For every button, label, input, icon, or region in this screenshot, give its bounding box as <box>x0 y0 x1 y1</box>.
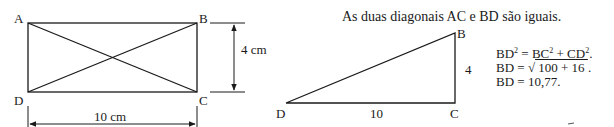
equation-pythagoras: BD2 = BC2 + CD2. <box>496 47 592 60</box>
side-dc-label: 10 <box>370 107 383 120</box>
triangle-bcd <box>286 33 455 103</box>
equation-sqrt: BD = √ 100 + 16 . <box>496 61 591 74</box>
height-dimension <box>210 23 245 92</box>
vertex-c-label: C <box>199 94 208 107</box>
stray-mark <box>568 123 574 124</box>
equation-result: BD = 10,77. <box>496 75 560 88</box>
caption: As duas diagonais AC e BD são iguais. <box>342 10 561 24</box>
triangle-vertex-c-label: C <box>450 107 459 120</box>
vertex-a-label: A <box>14 12 23 25</box>
vertex-d-label: D <box>14 94 23 107</box>
triangle-vertex-b-label: B <box>457 27 466 40</box>
side-bc-label: 4 <box>465 63 472 76</box>
width-label: 10 cm <box>94 110 126 123</box>
rectangle-abcd <box>28 23 197 92</box>
triangle-vertex-d-label: D <box>276 107 285 120</box>
vertex-b-label: B <box>199 12 208 25</box>
height-label: 4 cm <box>241 43 267 56</box>
